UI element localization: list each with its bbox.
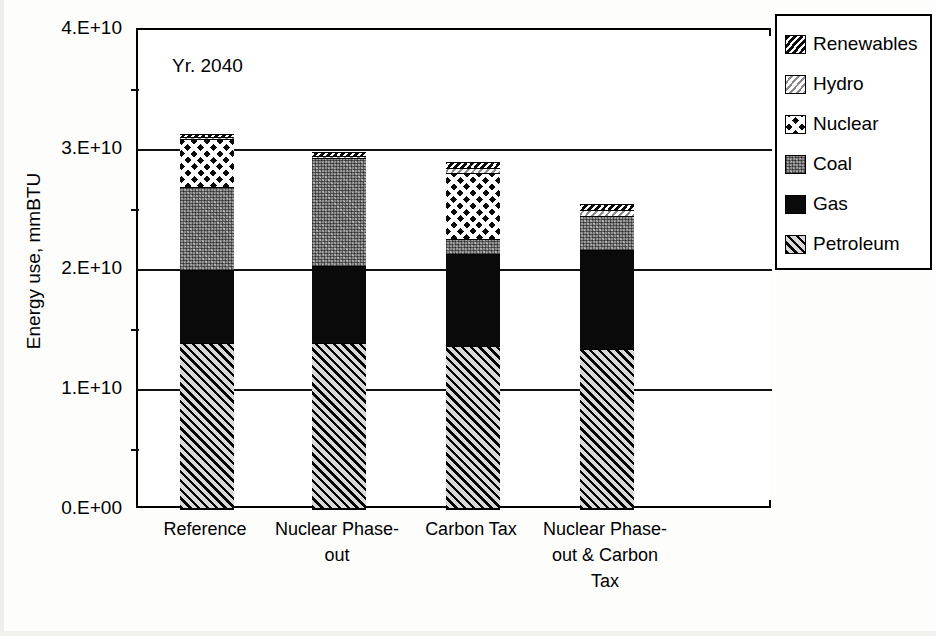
legend-label: Renewables <box>813 33 918 55</box>
x-axis-label-line: out <box>262 542 412 568</box>
x-axis-label-line: out & Carbon <box>530 542 680 568</box>
bar-segment-renewables <box>580 204 634 210</box>
bar-segment-petroleum <box>446 346 500 510</box>
bar-segment-gas <box>446 254 500 345</box>
x-axis-tick-label: Nuclear Phase-out & CarbonTax <box>530 516 680 594</box>
chart-legend: RenewablesHydroNuclearCoalGasPetroleum <box>775 14 932 270</box>
axis-corner-bottom-right <box>769 500 771 508</box>
year-annotation: Yr. 2040 <box>172 55 243 77</box>
legend-swatch-nuclear-icon <box>785 115 806 134</box>
bar-segment-gas <box>312 266 366 343</box>
y-axis-minor-tick <box>131 329 139 331</box>
bar-segment-gas <box>580 250 634 350</box>
x-axis-label-line: Tax <box>530 568 680 594</box>
x-axis-label-line: Nuclear Phase- <box>262 516 412 542</box>
y-axis-tick-label: 4.E+10 <box>26 18 122 37</box>
bar-segment-petroleum <box>180 343 234 510</box>
legend-item-coal[interactable]: Coal <box>785 144 930 184</box>
bar-segment-nuclear <box>180 139 234 187</box>
y-axis-tick-label: 0.E+00 <box>26 498 122 517</box>
legend-item-gas[interactable]: Gas <box>785 184 930 224</box>
bar-segment-hydro <box>180 137 234 139</box>
bar-segment-hydro <box>312 156 366 158</box>
legend-swatch-gas-icon <box>785 195 806 214</box>
bar-segment-renewables <box>312 152 366 156</box>
bar-segment-hydro <box>446 168 500 173</box>
y-axis-minor-tick <box>131 89 139 91</box>
y-axis-tick-label: 3.E+10 <box>26 138 122 157</box>
bar-segment-coal <box>580 216 634 250</box>
legend-swatch-renewables-icon <box>785 35 806 54</box>
x-axis-label-line: Nuclear Phase- <box>530 516 680 542</box>
bar-segment-hydro <box>580 210 634 216</box>
x-axis-label-line: Reference <box>130 516 280 542</box>
y-axis-minor-tick <box>131 449 139 451</box>
legend-label: Coal <box>813 153 852 175</box>
bar-carbon-tax[interactable] <box>446 162 500 510</box>
chart-figure: Energy use, mmBTU 0.E+001.E+102.E+103.E+… <box>0 0 936 636</box>
bar-segment-coal <box>312 158 366 266</box>
scan-edge-bottom <box>0 631 936 636</box>
axis-corner-top-right <box>769 28 771 36</box>
bar-segment-petroleum <box>312 343 366 510</box>
legend-swatch-petroleum-icon <box>785 235 806 254</box>
x-axis-tick-label: Nuclear Phase-out <box>262 516 412 568</box>
scan-edge-left <box>0 0 4 636</box>
plot-area <box>136 28 770 508</box>
bar-segment-coal <box>180 187 234 270</box>
bar-segment-gas <box>180 270 234 343</box>
bar-nuclear-phase-out-carbon-tax[interactable] <box>580 204 634 510</box>
x-axis-label-line: Carbon Tax <box>396 516 546 542</box>
legend-label: Nuclear <box>813 113 878 135</box>
bar-segment-nuclear <box>446 173 500 239</box>
y-axis-tick-label: 2.E+10 <box>26 258 122 277</box>
legend-swatch-hydro-icon <box>785 75 806 94</box>
bar-segment-renewables <box>180 134 234 136</box>
legend-item-nuclear[interactable]: Nuclear <box>785 104 930 144</box>
legend-label: Gas <box>813 193 848 215</box>
y-axis-tick-label: 1.E+10 <box>26 378 122 397</box>
bar-reference[interactable] <box>180 134 234 510</box>
x-axis-tick-label: Carbon Tax <box>396 516 546 542</box>
y-axis-minor-tick <box>131 209 139 211</box>
legend-item-hydro[interactable]: Hydro <box>785 64 930 104</box>
legend-label: Hydro <box>813 73 864 95</box>
x-axis-tick-label: Reference <box>130 516 280 542</box>
y-axis-tick-labels: 0.E+001.E+102.E+103.E+104.E+10 <box>26 0 122 636</box>
bar-segment-coal <box>446 239 500 255</box>
legend-item-renewables[interactable]: Renewables <box>785 24 930 64</box>
legend-swatch-coal-icon <box>785 155 806 174</box>
legend-item-petroleum[interactable]: Petroleum <box>785 224 930 264</box>
bar-nuclear-phase-out[interactable] <box>312 152 366 510</box>
bar-segment-renewables <box>446 162 500 168</box>
legend-label: Petroleum <box>813 233 900 255</box>
bar-segment-petroleum <box>580 349 634 510</box>
